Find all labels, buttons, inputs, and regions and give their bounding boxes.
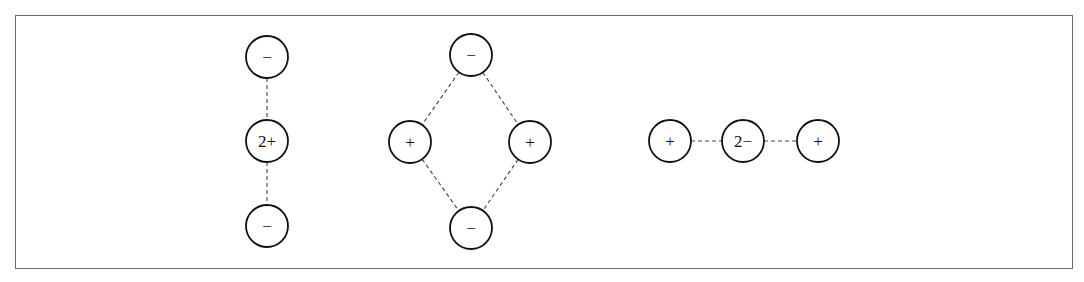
group-rhombus: −++− xyxy=(389,34,551,249)
bond-line xyxy=(483,72,518,124)
ion-charge-label: + xyxy=(405,133,415,152)
group-linear-horizontal: +2−+ xyxy=(649,120,839,162)
ion-charge-label: + xyxy=(665,132,675,151)
ion-charge-label: − xyxy=(262,217,272,236)
ion-charge-label: + xyxy=(813,132,823,151)
ion-charge-label: − xyxy=(466,46,476,65)
ion-charge-label: − xyxy=(262,48,272,67)
ion-charge-label: 2+ xyxy=(258,132,276,151)
bond-line xyxy=(483,159,518,210)
ion-charge-label: + xyxy=(525,133,535,152)
bond-line xyxy=(422,72,459,125)
ion-charge-label: − xyxy=(466,219,476,238)
group-linear-vertical: −2+− xyxy=(246,36,288,247)
ion-charge-label: 2− xyxy=(734,132,752,151)
bond-line xyxy=(422,159,459,211)
ion-diagram: −2+−−++−+2−+ xyxy=(0,0,1084,282)
